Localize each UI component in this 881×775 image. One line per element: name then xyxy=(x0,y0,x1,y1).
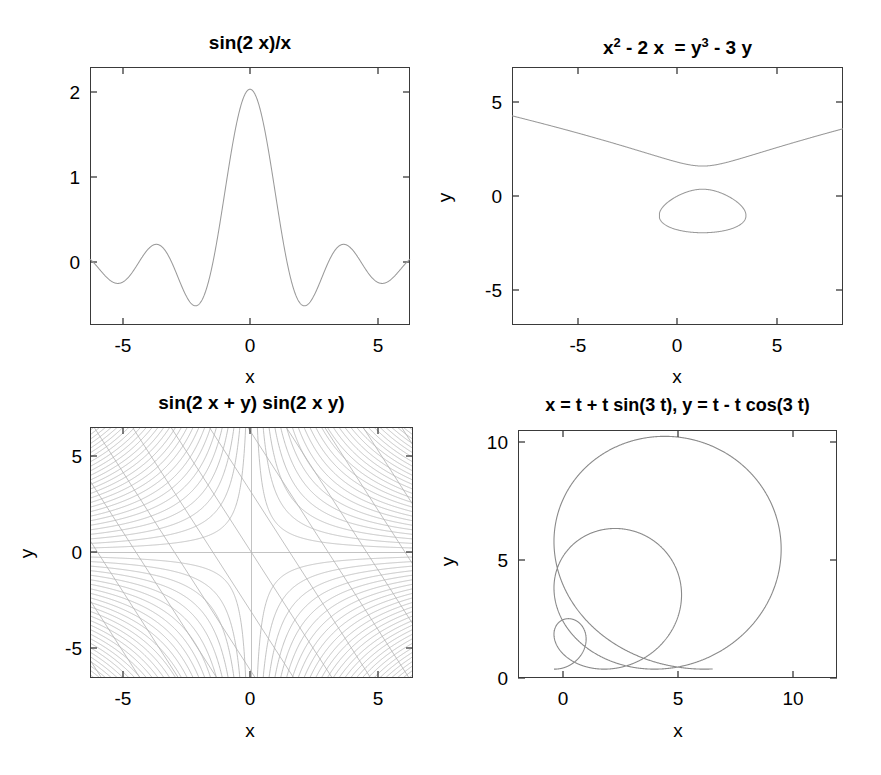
subplot-parametric-spiral-xtick-0: 0 xyxy=(558,689,569,708)
subplot-parametric-spiral-axes xyxy=(518,430,837,678)
subplot-contour-sin-xtick-neg5: -5 xyxy=(115,689,132,708)
subplot-contour-sin-ytick-0: 0 xyxy=(50,543,82,562)
subplot-sinc-title: sin(2 x)/x xyxy=(90,32,410,54)
subplot-parametric-spiral-ytick-10: 10 xyxy=(470,433,508,452)
subplot-sinc-ytick-1: 1 xyxy=(58,168,80,187)
subplot-parametric-spiral-ytick-0: 0 xyxy=(470,669,508,688)
subplot-sinc-xtick-0: 0 xyxy=(245,336,256,355)
subplot-contour-sin-ytick-neg5: -5 xyxy=(50,639,82,658)
subplot-parametric-spiral-ylabel: y xyxy=(438,557,457,567)
subplot-parametric-spiral-ytick-5: 5 xyxy=(470,551,508,570)
subplot-implicit-cubic-title: x2 - 2 x = y3 - 3 y xyxy=(512,32,843,59)
subplot-contour-sin-ytick-5: 5 xyxy=(50,447,82,466)
subplot-sinc-axes xyxy=(90,67,410,325)
subplot-implicit-cubic-ytick-neg5: -5 xyxy=(470,281,502,300)
subplot-implicit-cubic-axes xyxy=(512,67,843,325)
subplot-implicit-cubic-ytick-5: 5 xyxy=(470,93,502,112)
subplot-implicit-cubic-ytick-0: 0 xyxy=(470,187,502,206)
subplot-sinc-xtick-neg5: -5 xyxy=(115,336,132,355)
subplot-sinc-xtick-5: 5 xyxy=(373,336,384,355)
subplot-implicit-cubic-xlabel: x xyxy=(672,367,682,386)
subplot-sinc-ytick-0: 0 xyxy=(58,253,80,272)
subplot-implicit-cubic-xtick-5: 5 xyxy=(772,336,783,355)
subplot-contour-sin-axes xyxy=(90,427,413,678)
subplot-implicit-cubic-xtick-neg5: -5 xyxy=(570,336,587,355)
subplot-contour-sin-xlabel: x xyxy=(245,721,255,740)
subplot-contour-sin-title: sin(2 x + y) sin(2 x y) xyxy=(90,392,413,414)
subplot-sinc-ytick-2: 2 xyxy=(58,83,80,102)
subplot-parametric-spiral-xlabel: x xyxy=(673,721,683,740)
subplot-parametric-spiral-xtick-10: 10 xyxy=(782,689,803,708)
subplot-contour-sin-xtick-5: 5 xyxy=(373,689,384,708)
subplot-parametric-spiral-title: x = t + t sin(3 t), y = t - t cos(3 t) xyxy=(500,394,855,416)
subplot-contour-sin-ylabel: y xyxy=(17,549,36,559)
subplot-sinc-xlabel: x xyxy=(245,367,255,386)
subplot-implicit-cubic-xtick-0: 0 xyxy=(672,336,683,355)
subplot-implicit-cubic-ylabel: y xyxy=(435,193,454,203)
subplot-parametric-spiral-xtick-5: 5 xyxy=(673,689,684,708)
subplot-contour-sin-xtick-0: 0 xyxy=(245,689,256,708)
